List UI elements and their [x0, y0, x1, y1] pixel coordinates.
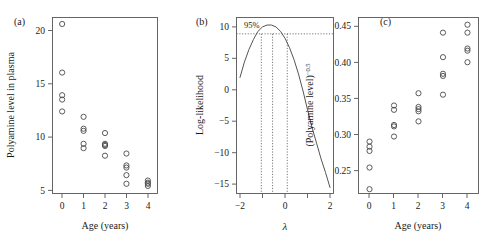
panel-a-x-ticks	[62, 194, 148, 199]
panel-c: (c) 0.25 0.30 0.35 0.40 0.45 (Polyamine …	[304, 16, 479, 232]
data-point	[367, 139, 372, 144]
data-point	[391, 134, 396, 139]
data-point	[440, 55, 445, 60]
panel-c-y-axis-label-exponent: −0.5	[304, 63, 311, 75]
panel-b-x-axis-label: λ	[282, 220, 288, 232]
panel-c-xtick-3: 3	[440, 201, 445, 211]
data-point	[124, 151, 129, 156]
panel-c-ytick-025: 0.25	[334, 166, 351, 176]
data-point	[60, 21, 65, 26]
panel-b-xtick-neg2: −2	[235, 201, 245, 211]
data-point	[465, 30, 470, 35]
panel-c-ytick-045: 0.45	[334, 21, 351, 31]
panel-a-y-ticks	[48, 31, 53, 191]
panel-a-frame	[53, 18, 158, 194]
panel-b-xtick-2: 2	[328, 201, 333, 211]
data-point	[465, 22, 470, 27]
data-point	[416, 119, 421, 124]
panel-a-ytick-15: 15	[36, 79, 46, 89]
panel-b-ci-annotation: 95%	[244, 20, 260, 30]
panel-b-xtick-0: 0	[283, 201, 288, 211]
panel-b-ytick-neg5: −5	[219, 116, 229, 126]
panel-c-y-axis: 0.25 0.30 0.35 0.40 0.45 (Polyamine leve…	[304, 21, 359, 175]
panel-a-tag: (a)	[14, 16, 25, 28]
panel-a-y-axis-label: Polyamine level in plasma	[5, 52, 16, 158]
panel-b-ytick-neg15: −15	[214, 179, 229, 189]
data-point	[60, 70, 65, 75]
panel-c-ytick-030: 0.30	[334, 130, 351, 140]
panel-b-x-axis: −2 0 2 λ	[235, 194, 333, 233]
data-point	[81, 114, 86, 119]
data-point	[124, 181, 129, 186]
panel-b-tag: (b)	[196, 16, 208, 28]
panel-c-x-ticks	[369, 194, 467, 199]
panel-a-x-axis-label: Age (years)	[82, 220, 129, 232]
panel-a-xtick-0: 0	[60, 201, 65, 211]
panel-c-ytick-035: 0.35	[334, 94, 351, 104]
data-point	[465, 60, 470, 65]
panel-b-ytick-5: 5	[224, 53, 229, 63]
data-point	[102, 130, 107, 135]
panel-b-y-axis-label: Log-likelihood	[194, 75, 205, 135]
panel-c-y-axis-label-base: (Polyamine level)	[304, 75, 316, 146]
panel-a-xtick-2: 2	[103, 201, 108, 211]
data-point	[416, 91, 421, 96]
data-point	[124, 173, 129, 178]
panel-b-x-ticks	[240, 194, 330, 199]
panel-c-frame	[359, 18, 479, 194]
figure-container: (a) 5 10 15 20 Polyamine level in plasma	[0, 0, 494, 246]
panel-b-ci-vertical-lines	[261, 34, 287, 194]
data-point	[440, 30, 445, 35]
panel-c-x-axis-label: Age (years)	[395, 220, 442, 232]
panel-a-data-points	[60, 21, 151, 188]
panel-c-xtick-2: 2	[416, 201, 421, 211]
data-point	[60, 109, 65, 114]
panel-a-xtick-4: 4	[146, 201, 151, 211]
panel-a-x-axis: 0 1 2 3 4 Age (years)	[60, 194, 151, 233]
panel-c-xtick-1: 1	[391, 201, 396, 211]
panel-b-loglik-curve	[240, 25, 330, 188]
panel-b-y-axis: −15 −10 −5 0 5 10 Log-likelihood	[194, 22, 237, 189]
panel-b-ytick-0: 0	[224, 85, 229, 95]
panel-b-y-ticks	[232, 27, 237, 184]
panel-c-x-axis: 0 1 2 3 4 Age (years)	[367, 194, 470, 233]
panel-a-xtick-3: 3	[124, 201, 129, 211]
panel-a: (a) 5 10 15 20 Polyamine level in plasma	[5, 16, 158, 232]
panel-c-xtick-0: 0	[367, 201, 372, 211]
data-point	[102, 153, 107, 158]
panel-c-y-axis-label: (Polyamine level)−0.5	[304, 63, 316, 146]
panel-a-xtick-1: 1	[81, 201, 86, 211]
panel-a-ytick-10: 10	[36, 132, 46, 142]
panel-c-y-ticks	[354, 26, 359, 170]
panel-c-xtick-4: 4	[465, 201, 470, 211]
panel-b-ytick-neg10: −10	[214, 148, 229, 158]
three-panel-figure: (a) 5 10 15 20 Polyamine level in plasma	[0, 0, 494, 246]
panel-a-ytick-20: 20	[36, 26, 46, 36]
data-point	[367, 187, 372, 192]
panel-c-ytick-040: 0.40	[334, 58, 351, 68]
panel-b-ytick-10: 10	[220, 22, 230, 32]
panel-c-data-points	[367, 22, 470, 192]
data-point	[367, 165, 372, 170]
panel-a-ytick-5: 5	[40, 186, 45, 196]
panel-a-y-axis: 5 10 15 20 Polyamine level in plasma	[5, 26, 53, 196]
data-point	[440, 92, 445, 97]
